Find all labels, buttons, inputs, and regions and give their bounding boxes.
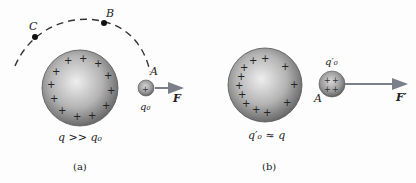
svg-text:+: + bbox=[261, 53, 269, 64]
small-sphere-label-b: q′₀ bbox=[325, 56, 338, 67]
svg-text:+: + bbox=[50, 93, 58, 104]
svg-text:+: + bbox=[332, 76, 339, 85]
label-a-b: A bbox=[313, 92, 322, 105]
svg-text:+: + bbox=[107, 85, 115, 96]
svg-text:+: + bbox=[324, 85, 331, 94]
svg-text:+: + bbox=[88, 110, 96, 121]
label-a: A bbox=[149, 65, 158, 78]
svg-text:+: + bbox=[73, 111, 81, 122]
svg-text:+: + bbox=[94, 58, 102, 69]
svg-text:+: + bbox=[47, 79, 55, 90]
svg-text:+: + bbox=[104, 70, 112, 81]
svg-text:+: + bbox=[252, 104, 260, 115]
small-sphere-label-a: q₀ bbox=[140, 101, 150, 112]
svg-text:+: + bbox=[283, 97, 291, 108]
svg-text:+: + bbox=[64, 55, 72, 66]
electric-field-diagram: C B +++ ++ ++ ++ +++ + A q₀ F q >> q₀ (a… bbox=[0, 0, 416, 183]
svg-text:+: + bbox=[332, 85, 339, 94]
svg-text:+: + bbox=[324, 76, 331, 85]
panel-a: C B +++ ++ ++ ++ +++ + A q₀ F q >> q₀ (a… bbox=[15, 7, 182, 172]
label-c: C bbox=[29, 20, 38, 33]
svg-text:+: + bbox=[281, 61, 289, 72]
svg-text:+: + bbox=[242, 98, 250, 109]
caption-b: (b) bbox=[262, 161, 276, 172]
label-b: B bbox=[105, 7, 114, 20]
caption-a: (a) bbox=[73, 161, 87, 172]
svg-text:+: + bbox=[249, 55, 257, 66]
large-sphere-label-a: q >> q₀ bbox=[58, 131, 103, 144]
svg-text:+: + bbox=[102, 100, 110, 111]
panel-b: ++ ++ + ++ + ++ ++ ++ ++ q′₀ A F′ q′₀ ≈ … bbox=[228, 48, 407, 172]
diagram-canvas: C B +++ ++ ++ ++ +++ + A q₀ F q >> q₀ (a… bbox=[0, 0, 416, 183]
point-c bbox=[32, 34, 38, 40]
force-label-b: F′ bbox=[395, 91, 407, 104]
svg-text:+: + bbox=[52, 66, 60, 77]
svg-text:+: + bbox=[79, 53, 87, 64]
svg-text:+: + bbox=[263, 107, 271, 118]
svg-text:+: + bbox=[58, 105, 66, 116]
plus-charges-small-b: ++ ++ bbox=[324, 76, 339, 94]
point-b bbox=[101, 20, 107, 26]
force-label-a: F bbox=[172, 92, 182, 105]
large-sphere-label-b: q′₀ ≈ q bbox=[248, 129, 285, 142]
plus-charge-small-a: + bbox=[142, 85, 149, 94]
svg-text:+: + bbox=[290, 79, 298, 90]
